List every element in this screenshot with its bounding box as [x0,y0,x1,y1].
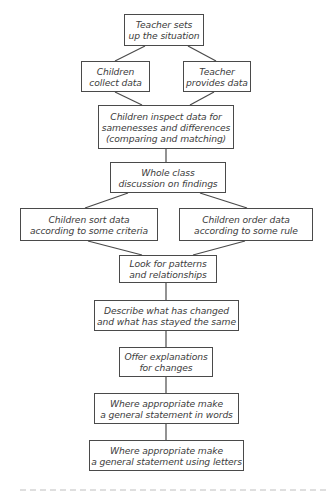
node-text: Offer explanations [124,351,207,362]
node-teacher-provides-data: Teacher provides data [183,61,251,92]
node-text: Look for patterns [129,258,206,269]
node-text: discussion on findings [118,178,217,189]
clipped-caption-text [20,486,330,491]
node-text: Teacher sets [136,19,193,30]
edge-setup-provide [188,46,216,61]
node-text: Where appropriate make [110,398,223,409]
edge-discuss-sort [85,193,128,208]
node-text: Describe what has changed [104,305,229,316]
edge-discuss-order [200,193,247,208]
node-children-collect-data: Children collect data [81,61,150,92]
node-describe-changes: Describe what has changed and what has s… [94,300,239,331]
node-text: Where appropriate make [110,445,223,456]
node-general-statement-letters: Where appropriate make a general stateme… [89,440,244,471]
edge-collect-inspect [115,92,142,105]
node-general-statement-words: Where appropriate make a general stateme… [94,393,239,424]
node-text: Children order data [202,214,290,225]
node-text: according to some criteria [30,225,148,236]
edge-sort-patterns [88,241,142,255]
node-text: for changes [139,362,192,373]
node-text: according to some rule [194,225,298,236]
node-whole-class-discussion: Whole class discussion on findings [110,162,226,193]
node-text: Children inspect data for [110,111,221,122]
node-text: Whole class [141,167,194,178]
node-text: collect data [89,77,142,88]
node-text: up the situation [129,30,200,41]
node-text: and relationships [129,269,207,280]
node-children-order-data: Children order data according to some ru… [179,208,313,241]
flowchart: Teacher sets up the situation Children c… [0,0,330,491]
node-text: Children [97,66,135,77]
node-text: (comparing and matching) [106,133,226,144]
node-offer-explanations: Offer explanations for changes [119,347,213,377]
node-children-inspect-data: Children inspect data for samenesses and… [98,105,234,149]
edge-order-patterns [193,241,245,255]
node-text: a general statement using letters [91,456,242,467]
edge-provide-inspect [190,92,214,105]
node-text: a general statement in words [100,409,233,420]
node-text: samenesses and differences [102,122,230,133]
node-text: Children sort data [49,214,130,225]
node-children-sort-data: Children sort data according to some cri… [20,208,158,241]
node-text: and what has stayed the same [97,316,236,327]
edge-setup-collect [115,46,145,61]
node-text: provides data [186,77,248,88]
node-look-for-patterns: Look for patterns and relationships [119,255,217,283]
node-teacher-sets-up-situation: Teacher sets up the situation [124,14,204,46]
node-text: Teacher [199,66,234,77]
